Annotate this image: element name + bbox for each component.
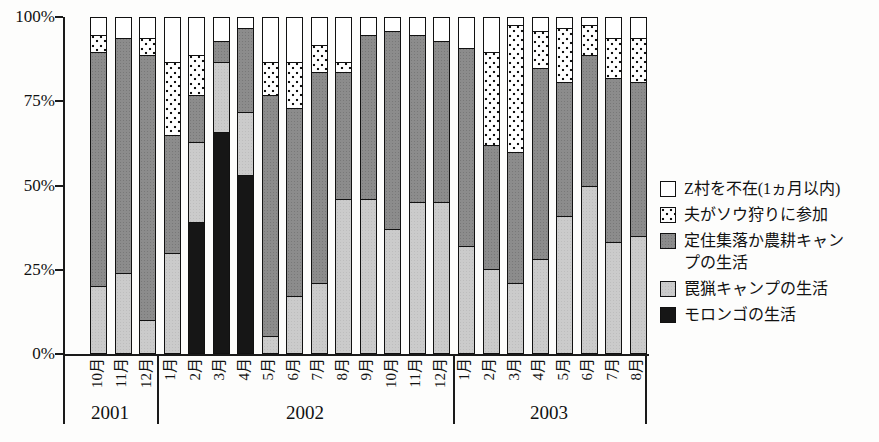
bar-16-1月 — [458, 17, 475, 354]
bar-19-4月 — [532, 17, 549, 354]
segment-dotted — [287, 62, 302, 109]
segment-dotted — [484, 52, 499, 146]
segment-white — [214, 18, 229, 41]
segment-light — [312, 283, 327, 353]
segment-dotted — [165, 62, 180, 136]
bar-7-4月 — [237, 17, 254, 354]
legend-item: 夫がソウ狩りに参加 — [660, 204, 874, 226]
segment-dark — [484, 145, 499, 269]
segment-dark — [361, 35, 376, 199]
x-axis-labels: 10月11月12月1月2月3月4月5月6月7月8月9月10月11月12月1月2月… — [88, 358, 645, 404]
bar-18-3月 — [507, 17, 524, 354]
segment-light — [434, 202, 449, 353]
bar-20-5月 — [556, 17, 573, 354]
segment-light — [214, 62, 229, 132]
x-label-12月: 12月 — [431, 358, 448, 404]
segment-dark — [385, 31, 400, 229]
year-label-2002: 2002 — [157, 402, 453, 424]
segment-light — [484, 269, 499, 353]
x-label-11月: 11月 — [113, 358, 130, 404]
segment-dotted — [557, 28, 572, 82]
y-tick-50% — [55, 185, 63, 187]
x-label-text: 3月 — [211, 358, 228, 404]
segment-black — [238, 175, 253, 353]
legend-label: 夫がソウ狩りに参加 — [684, 204, 858, 226]
segment-light — [165, 253, 180, 354]
x-label-10月: 10月 — [88, 358, 105, 404]
x-label-1月: 1月 — [162, 358, 179, 404]
segment-white — [484, 18, 499, 52]
segment-white — [434, 18, 449, 41]
x-label-6月: 6月 — [579, 358, 596, 404]
segment-dark — [263, 95, 278, 336]
segment-dotted — [312, 45, 327, 72]
segment-white — [287, 18, 302, 62]
x-label-12月: 12月 — [137, 358, 154, 404]
segment-white — [140, 18, 155, 38]
x-label-6月: 6月 — [284, 358, 301, 404]
legend-label: モロンゴの生活 — [684, 304, 858, 326]
legend: Z村を不在(1ヵ月以内)夫がソウ狩りに参加定住集落か農耕キャンプの生活罠猟キャン… — [660, 178, 874, 330]
x-label-text: 12月 — [137, 358, 154, 404]
legend-swatch-dark — [660, 233, 676, 249]
x-label-text: 6月 — [284, 358, 301, 404]
y-axis-label: 50% — [0, 176, 55, 196]
segment-white — [557, 18, 572, 28]
legend-label: 定住集落か農耕キャンプの生活 — [684, 230, 858, 274]
y-tick-25% — [55, 269, 63, 271]
x-label-text: 9月 — [358, 358, 375, 404]
legend-label: 罠猟キャンプの生活 — [684, 278, 858, 300]
y-axis-label: 25% — [0, 260, 55, 280]
bar-8-5月 — [262, 17, 279, 354]
segment-white — [165, 18, 180, 62]
x-label-text: 1月 — [162, 358, 179, 404]
x-label-text: 6月 — [579, 358, 596, 404]
segment-white — [582, 18, 597, 25]
year-label-2003: 2003 — [453, 402, 645, 424]
segment-dotted — [533, 31, 548, 68]
segment-dark — [287, 108, 302, 296]
x-label-3月: 3月 — [505, 358, 522, 404]
bar-6-3月 — [213, 17, 230, 354]
segment-light — [287, 296, 302, 353]
bar-12-9月 — [360, 17, 377, 354]
segment-black — [189, 222, 204, 353]
segment-white — [385, 18, 400, 31]
segment-dotted — [508, 25, 523, 152]
bar-23-8月 — [630, 17, 647, 354]
segment-white — [533, 18, 548, 31]
segment-dark — [631, 82, 646, 236]
bar-1-10月 — [90, 17, 107, 354]
y-tick-75% — [55, 100, 63, 102]
bar-2-11月 — [115, 17, 132, 354]
x-label-11月: 11月 — [407, 358, 424, 404]
axis-end-line — [645, 354, 647, 424]
segment-dark — [508, 152, 523, 283]
segment-dark — [214, 41, 229, 61]
x-label-4月: 4月 — [235, 358, 252, 404]
segment-light — [410, 202, 425, 353]
segment-light — [140, 320, 155, 354]
x-label-7月: 7月 — [603, 358, 620, 404]
bar-15-12月 — [433, 17, 450, 354]
segment-dotted — [582, 25, 597, 55]
segment-light — [361, 199, 376, 353]
segment-light — [238, 112, 253, 176]
x-label-2月: 2月 — [186, 358, 203, 404]
x-label-8月: 8月 — [628, 358, 645, 404]
segment-dotted — [91, 35, 106, 52]
segment-dark — [189, 95, 204, 142]
stacked-bar-chart-figure: 0%25%50%75%100% 10月11月12月1月2月3月4月5月6月7月8… — [0, 0, 879, 442]
segment-white — [238, 18, 253, 28]
segment-white — [410, 18, 425, 35]
segment-dark — [165, 135, 180, 252]
segment-light — [116, 273, 131, 353]
x-label-2月: 2月 — [481, 358, 498, 404]
segment-light — [91, 286, 106, 353]
bar-14-11月 — [409, 17, 426, 354]
segment-light — [336, 199, 351, 353]
segment-dark — [557, 82, 572, 216]
bar-11-8月 — [335, 17, 352, 354]
segment-white — [336, 18, 351, 62]
segment-white — [263, 18, 278, 62]
